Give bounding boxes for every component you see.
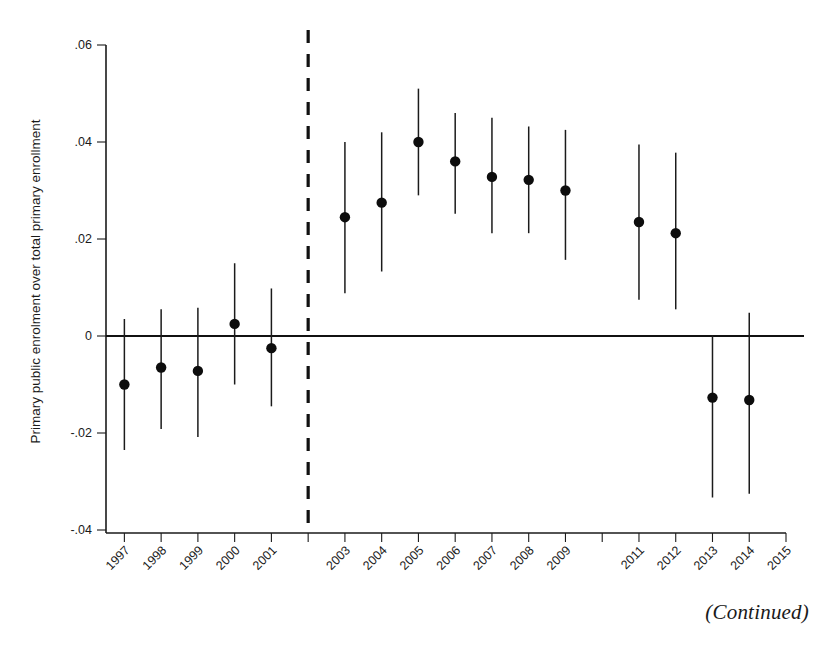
coefficient-point	[340, 212, 350, 222]
continued-note: (Continued)	[705, 600, 809, 625]
coefficient-point	[119, 379, 129, 389]
y-tick-label: -.04	[70, 523, 92, 537]
coefficient-point	[266, 343, 276, 353]
x-axis: 1997199819992000200120032004200520062007…	[103, 533, 794, 573]
coefficient-series	[119, 89, 754, 498]
x-tick-label: 2015	[765, 543, 795, 573]
x-tick-label: 2012	[654, 543, 684, 573]
y-tick-label: .02	[75, 232, 92, 246]
x-tick-label: 2000	[213, 543, 243, 573]
x-tick-label: 2001	[250, 543, 280, 573]
coefficient-point	[229, 319, 239, 329]
x-tick-label: 1999	[176, 543, 206, 573]
x-tick-label: 1998	[140, 543, 170, 573]
x-tick-label: 2013	[691, 543, 721, 573]
x-tick-label: 2009	[544, 543, 574, 573]
coefficient-point	[744, 395, 754, 405]
event-study-chart: .06.04.020-.02-.04 199719981999200020012…	[0, 0, 837, 647]
y-axis-label: Primary public enrolment over total prim…	[28, 119, 43, 443]
x-tick-label: 2004	[360, 543, 390, 573]
coefficient-point	[707, 392, 717, 402]
y-tick-label: .06	[75, 38, 92, 52]
coefficient-point	[450, 156, 460, 166]
chart-svg: .06.04.020-.02-.04 199719981999200020012…	[0, 0, 837, 647]
figure-page: .06.04.020-.02-.04 199719981999200020012…	[0, 0, 837, 647]
x-tick-label: 2008	[507, 543, 537, 573]
y-axis: .06.04.020-.02-.04	[70, 38, 106, 537]
x-tick-label: 2014	[728, 543, 758, 573]
y-tick-label: .04	[75, 135, 92, 149]
x-tick-label: 2006	[434, 543, 464, 573]
coefficient-point	[376, 197, 386, 207]
y-axis-title: Primary public enrolment over total prim…	[28, 119, 43, 443]
coefficient-point	[524, 175, 534, 185]
coefficient-point	[413, 137, 423, 147]
y-tick-label: -.02	[70, 426, 92, 440]
x-tick-label: 2005	[397, 543, 427, 573]
x-tick-label: 2011	[618, 543, 647, 572]
coefficient-point	[671, 228, 681, 238]
x-tick-label: 1997	[103, 543, 133, 573]
coefficient-point	[156, 362, 166, 372]
coefficient-point	[487, 172, 497, 182]
coefficient-point	[193, 366, 203, 376]
x-tick-label: 2007	[471, 543, 501, 573]
coefficient-point	[560, 185, 570, 195]
y-tick-label: 0	[85, 329, 92, 343]
coefficient-point	[634, 217, 644, 227]
x-tick-label: 2003	[323, 543, 353, 573]
